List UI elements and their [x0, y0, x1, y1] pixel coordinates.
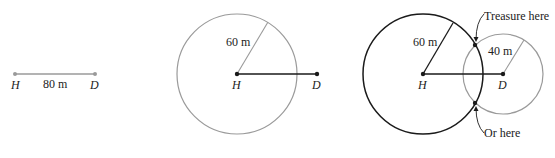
point-d — [315, 72, 319, 76]
arrow-top — [476, 14, 484, 40]
label-distance: 80 m — [43, 77, 68, 91]
intersection-top — [473, 43, 477, 47]
panel-one-circle: 60 m H D — [177, 14, 321, 134]
point-h — [421, 72, 425, 76]
label-d: D — [311, 78, 321, 92]
arrow-bottom — [476, 108, 484, 133]
panel-two-circles: 60 m 40 m H D Treasure here Or here — [363, 9, 549, 140]
point-d — [501, 72, 505, 76]
label-d: D — [497, 78, 507, 92]
label-h: H — [231, 78, 242, 92]
label-radius-h: 60 m — [413, 35, 438, 49]
label-radius-d: 40 m — [488, 44, 513, 58]
label-h: H — [10, 78, 21, 92]
intersection-bottom — [473, 101, 477, 105]
annotation-or-here: Or here — [484, 126, 520, 140]
point-h — [235, 72, 239, 76]
panel-segment: H 80 m D — [10, 72, 99, 92]
arrowhead-bottom — [474, 106, 479, 111]
label-h: H — [417, 78, 428, 92]
label-d: D — [89, 78, 99, 92]
point-h — [13, 72, 17, 76]
annotation-treasure-here: Treasure here — [484, 9, 549, 23]
arrowhead-top — [474, 37, 479, 42]
label-radius: 60 m — [226, 35, 251, 49]
treasure-diagram: H 80 m D 60 m H D 60 m 40 m H D Treasure… — [0, 0, 555, 158]
point-d — [93, 72, 97, 76]
